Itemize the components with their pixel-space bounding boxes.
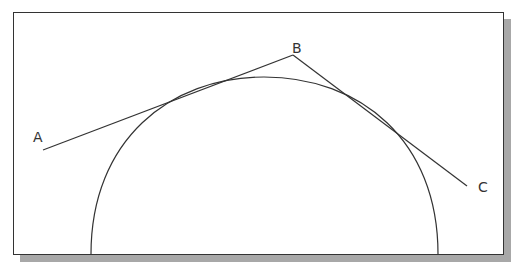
point-label-c: C [478, 180, 488, 194]
tangent-line-ab [43, 55, 293, 150]
point-label-a: A [33, 130, 43, 144]
tangent-line-bc [293, 55, 467, 186]
point-label-b: B [292, 41, 302, 55]
tangent-diagram [0, 0, 521, 269]
semicircle-arc [91, 77, 438, 254]
